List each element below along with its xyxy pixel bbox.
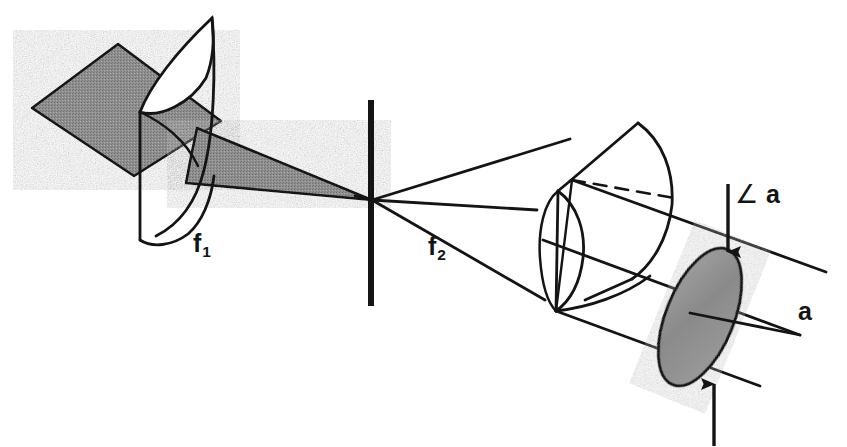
label-angle-a-text: a <box>766 180 780 208</box>
optical-diagram-canvas: f1 f2 ∠ a a <box>0 0 847 447</box>
label-f2-text: f <box>428 232 436 260</box>
spatial-filter-slit <box>368 100 374 306</box>
diverging-rays <box>355 139 570 300</box>
angle-icon: ∠ <box>735 179 759 209</box>
label-angle-a: ∠ a <box>735 181 780 207</box>
converging-beam-wedge <box>186 128 372 200</box>
label-f1-text: f <box>193 229 201 257</box>
label-f1-subscript: 1 <box>202 243 211 260</box>
label-focal-length-2: f2 <box>428 234 445 259</box>
output-spot-ellipse <box>641 237 759 398</box>
optical-diagram-svg <box>0 0 847 447</box>
label-focal-length-1: f1 <box>193 231 210 256</box>
label-f2-subscript: 2 <box>437 246 446 263</box>
label-aperture-a: a <box>798 299 812 324</box>
